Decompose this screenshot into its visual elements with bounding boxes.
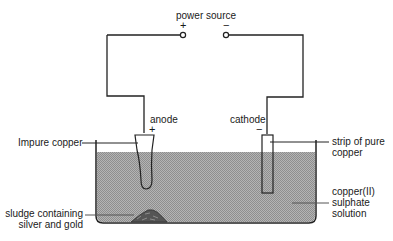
pure-copper-label-line2: copper	[332, 148, 363, 158]
solution-label-line3: solution	[332, 209, 366, 219]
power-positive-sign: +	[180, 20, 186, 31]
anode-sign: +	[149, 124, 155, 135]
impure-copper-label: Impure copper	[18, 138, 80, 148]
power-negative-sign: −	[223, 20, 229, 31]
cathode-sign: −	[256, 124, 262, 135]
electrolysis-diagram: power source + − anode + cathode − Impur…	[0, 0, 393, 241]
positive-terminal	[180, 32, 185, 37]
copper-sulphate-solution	[97, 152, 315, 222]
pure-copper-label-line1: strip of pure	[332, 137, 385, 147]
sludge-label-line2: silver and gold	[0, 220, 83, 230]
solution-label-line1: copper(II)	[332, 187, 375, 197]
solution-label-line2: sulphate	[332, 198, 370, 208]
sludge-label-line1: sludge containing	[0, 209, 83, 219]
negative-terminal	[223, 32, 228, 37]
